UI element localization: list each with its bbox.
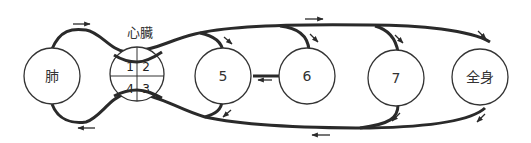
svg-text:7: 7 [392,70,401,86]
lung-node: 肺 [24,48,80,104]
node-7: 7 [368,50,424,106]
arrow-down-right-icon [310,34,318,42]
aorta-path [140,25,490,50]
body-node: 全身 [452,49,508,105]
branch-7-bottom [360,105,398,128]
branch-7-top [375,26,398,52]
svg-text:6: 6 [303,68,312,84]
lung-label: 肺 [45,68,59,84]
branch-6-top [280,26,309,50]
node-5: 5 [195,48,251,104]
svg-text:全身: 全身 [466,69,494,85]
heart-label: 心臓 [127,25,153,40]
svg-text:5: 5 [219,68,228,84]
arrow-down-left-icon [477,114,485,122]
arrow-down-left-icon [223,110,231,117]
node-6: 6 [279,48,335,104]
chamber-3: 3 [142,82,150,96]
pulmonary-artery-path [52,29,126,52]
arrow-down-right-icon [224,37,232,44]
circulation-diagram: 肺 1 2 4 3 心臓 5 6 7 全身 [0,0,531,143]
